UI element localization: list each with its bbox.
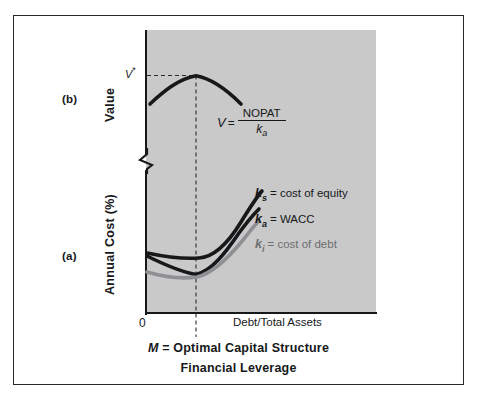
legend-symbol-ki: ki [255,237,264,254]
formula-numerator: NOPAT [238,107,286,120]
formula-fraction: NOPAT ka [238,107,286,139]
legend-symbol-ka: ka [255,212,267,229]
legend-item-cost-of-equity: ks = cost of equity [255,186,348,203]
legend-text-cost-of-equity: = cost of equity [270,187,348,199]
axis-break-icon [138,148,156,174]
x-axis-origin-label: 0 [139,317,146,329]
legend-symbol-ka-letter: k [255,212,262,226]
caption-optimal-capital-structure: M = Optimal Capital Structure [13,342,464,355]
formula-lhs: V [217,115,226,130]
v-star-label: V* [125,66,136,80]
caption-optimal-text: = Optimal Capital Structure [159,341,330,355]
value-y-axis [145,30,147,154]
x-axis-label: Debt/Total Assets [233,317,322,329]
legend-symbol-ki-subscript: i [262,244,265,254]
v-star-asterisk: * [132,65,136,75]
formula-equals-sign: = [228,116,235,130]
figure-root: (b) (a) Value Annual Cost (%) V* 0 Debt/… [0,0,477,400]
legend-symbol-ks: ks [255,186,267,203]
legend: ks = cost of equity ka = WACC ki = cost … [255,186,348,254]
formula-denominator-subscript: a [262,129,267,139]
panel-tag-b: (b) [62,94,77,106]
x-axis [145,312,377,314]
plot-canvas [146,30,376,313]
cost-y-axis [145,170,147,315]
legend-symbol-ks-letter: k [255,186,262,200]
legend-item-wacc: ka = WACC [255,212,348,229]
caption-m-symbol: M [148,341,159,355]
legend-text-cost-of-debt: = cost of debt [267,238,336,250]
formula-denominator: ka [251,121,272,138]
cost-axis-title: Annual Cost (%) [104,194,117,295]
panel-tag-a: (a) [62,251,77,263]
legend-text-wacc: = WACC [270,213,315,225]
value-axis-title: Value [104,88,117,122]
value-formula: V = NOPAT ka [217,107,286,139]
legend-symbol-ks-subscript: s [262,193,267,203]
caption-financial-leverage: Financial Leverage [13,362,464,375]
legend-symbol-ka-subscript: a [262,218,267,228]
legend-item-cost-of-debt: ki = cost of debt [255,237,348,254]
legend-symbol-ki-letter: k [255,237,262,251]
